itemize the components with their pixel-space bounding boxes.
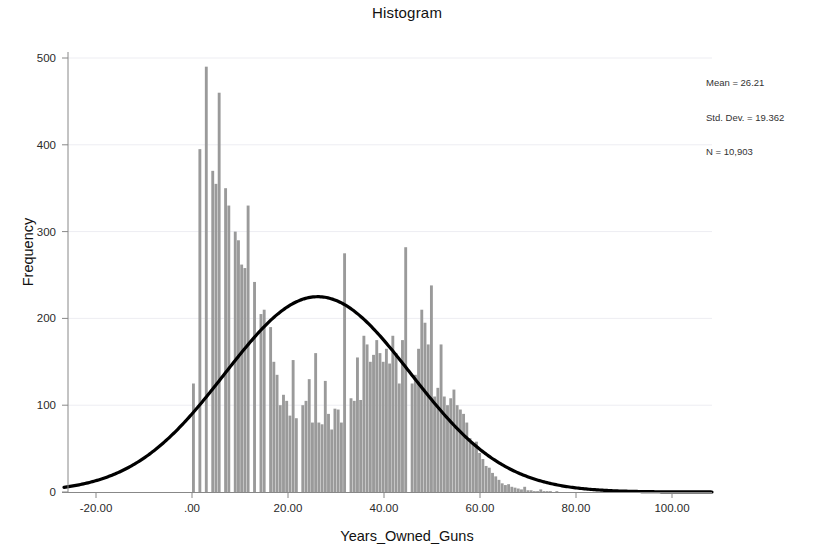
- histogram-bar: [359, 400, 362, 492]
- histogram-bar: [285, 401, 288, 492]
- histogram-bar: [395, 353, 398, 492]
- histogram-bar: [224, 188, 227, 492]
- histogram-bar: [276, 375, 279, 492]
- histogram-bar: [308, 379, 311, 492]
- histogram-bar: [398, 384, 401, 493]
- histogram-bar: [337, 410, 340, 492]
- histogram-bar: [340, 423, 343, 492]
- histogram-bar: [237, 240, 240, 492]
- histogram-bar: [379, 353, 382, 492]
- y-axis-tick-label: 0: [50, 486, 56, 498]
- histogram-bar: [295, 418, 298, 492]
- x-axis-tick-label: 100.00: [654, 502, 689, 514]
- histogram-bar: [485, 466, 488, 492]
- histogram-bar: [362, 336, 365, 492]
- normal-distribution-curve: [64, 297, 712, 492]
- y-axis-tick-label: 500: [37, 52, 56, 64]
- histogram-bar: [343, 253, 346, 492]
- histogram-bar: [546, 491, 549, 492]
- histogram-bar: [533, 491, 536, 492]
- histogram-bar: [510, 487, 513, 492]
- histogram-bar: [420, 310, 423, 492]
- histogram-bar: [520, 489, 523, 492]
- y-axis-tick-label: 400: [37, 139, 56, 151]
- histogram-bar: [272, 362, 275, 492]
- histogram-bar: [488, 468, 491, 492]
- x-axis-tick-label: .00: [184, 502, 200, 514]
- histogram-bar: [481, 459, 484, 492]
- histogram-bar: [523, 487, 526, 492]
- histogram-bar: [507, 484, 510, 492]
- histogram-bar: [417, 349, 420, 492]
- histogram-bar: [459, 410, 462, 492]
- histogram-bar: [330, 430, 333, 493]
- histogram-bar: [218, 93, 221, 492]
- histogram-bar: [321, 424, 324, 492]
- histogram-bar: [324, 381, 327, 492]
- histogram-bar: [240, 265, 243, 492]
- histogram-bar: [414, 375, 417, 492]
- histogram-bar: [382, 362, 385, 492]
- histogram-bar: [388, 364, 391, 492]
- histogram-bar: [433, 397, 436, 492]
- histogram-bar: [526, 490, 529, 492]
- histogram-bar: [436, 388, 439, 492]
- histogram-bar: [375, 340, 378, 492]
- histogram-bar: [211, 171, 214, 492]
- histogram-bars: [192, 67, 558, 492]
- histogram-bar: [314, 353, 317, 492]
- histogram-bar: [411, 384, 414, 493]
- histogram-bar: [453, 390, 456, 492]
- y-axis-title: Frequency: [20, 172, 36, 332]
- histogram-bar: [243, 268, 246, 492]
- x-axis-tick-label: 80.00: [562, 502, 591, 514]
- histogram-bar: [282, 395, 285, 492]
- histogram-bar: [198, 149, 201, 492]
- histogram-bar: [539, 489, 542, 492]
- histogram-bar: [536, 491, 539, 492]
- histogram-bar: [555, 491, 558, 492]
- histogram-bar: [443, 397, 446, 492]
- histogram-bar: [430, 285, 433, 492]
- histogram-bar: [424, 323, 427, 492]
- x-axis-tick-label: 40.00: [370, 502, 399, 514]
- histogram-bar: [247, 206, 250, 492]
- histogram-bar: [353, 401, 356, 492]
- histogram-bar: [263, 310, 266, 492]
- y-axis-ticks: 0100200300400500: [37, 52, 68, 498]
- histogram-bar: [517, 489, 520, 492]
- histogram-bar: [391, 336, 394, 492]
- histogram-bar: [292, 360, 295, 492]
- plot-area: 0100200300400500 -20.00.0020.0040.0060.0…: [0, 0, 814, 552]
- x-axis-tick-label: 20.00: [274, 502, 303, 514]
- x-axis-title: Years_Owned_Guns: [0, 528, 814, 544]
- histogram-bar: [543, 491, 546, 492]
- histogram-bar: [472, 444, 475, 492]
- histogram-bar: [305, 401, 308, 492]
- histogram-bar: [327, 414, 330, 492]
- histogram-bar: [279, 405, 282, 492]
- histogram-bar: [462, 414, 465, 492]
- histogram-bar: [317, 423, 320, 492]
- histogram-bar: [504, 485, 507, 492]
- histogram-bar: [427, 344, 430, 492]
- histogram-bar: [440, 344, 443, 492]
- x-axis-ticks: -20.00.0020.0040.0060.0080.00100.00: [80, 492, 690, 514]
- histogram-bar: [192, 384, 195, 493]
- y-axis-tick-label: 200: [37, 312, 56, 324]
- histogram-bar: [369, 362, 372, 492]
- histogram-bar: [288, 416, 291, 492]
- histogram-bar: [311, 423, 314, 492]
- histogram-bar: [465, 423, 468, 492]
- histogram-bar: [456, 405, 459, 492]
- y-axis-tick-label: 300: [37, 226, 56, 238]
- histogram-bar: [205, 67, 208, 492]
- histogram-figure: Histogram Mean = 26.21 Std. Dev. = 19.36…: [0, 0, 814, 552]
- histogram-bar: [501, 483, 504, 492]
- histogram-bar: [549, 491, 552, 492]
- histogram-bar: [385, 349, 388, 492]
- histogram-bar: [260, 314, 263, 492]
- histogram-bar: [530, 490, 533, 492]
- histogram-bar: [469, 438, 472, 492]
- histogram-bar: [372, 355, 375, 492]
